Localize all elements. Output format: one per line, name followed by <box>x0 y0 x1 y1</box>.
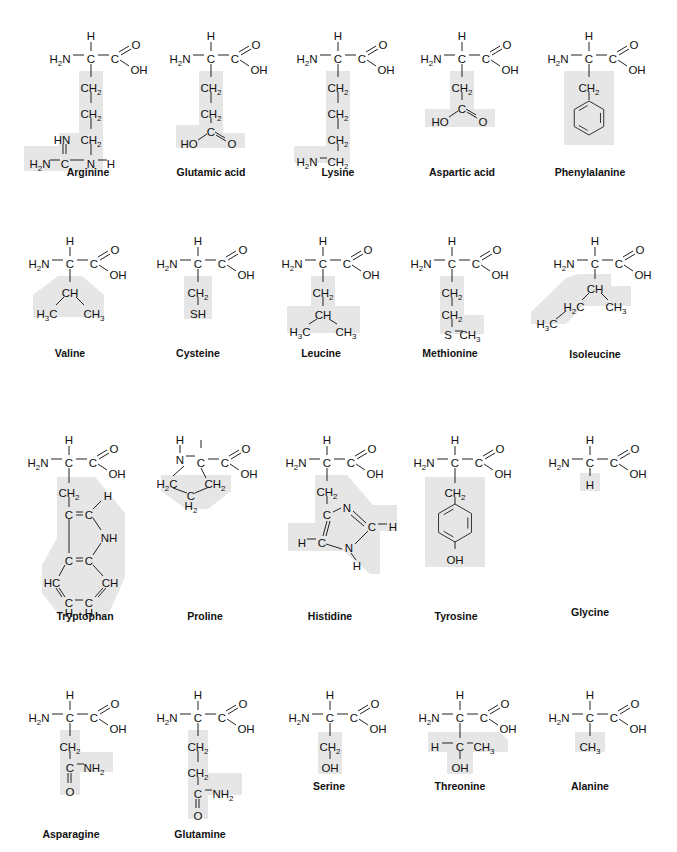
carboxyl-carbon: C <box>482 53 490 65</box>
carboxyl-hydroxyl: OH <box>491 269 508 281</box>
carbonyl-oxygen: O <box>631 698 640 710</box>
carboxyl-carbon: C <box>475 457 483 469</box>
amine-group: H2​N <box>49 53 70 68</box>
alpha-hydrogen: H <box>458 30 466 42</box>
alpha-hydrogen: H <box>334 30 342 42</box>
alpha-hydrogen: H <box>87 30 95 42</box>
alpha-carbon: C <box>456 712 464 724</box>
carboxyl-hydroxyl: OH <box>369 723 386 735</box>
amine-group: H2​N <box>156 712 177 727</box>
carbonyl-oxygen: O <box>364 244 373 256</box>
alpha-hydrogen: H <box>319 235 327 247</box>
bond-line <box>98 464 107 470</box>
carbonyl-oxygen: O <box>242 443 251 455</box>
carboxyl-hydroxyl: OH <box>130 64 147 76</box>
carboxyl-hydroxyl: OH <box>109 269 126 281</box>
carboxyl-hydroxyl: OH <box>237 269 254 281</box>
side-chain-atom: C <box>194 788 202 800</box>
carboxyl-hydroxyl: OH <box>240 468 257 480</box>
side-chain-atom: OH <box>451 762 468 774</box>
amine-group: H2​N <box>420 53 441 68</box>
tryptophan-side-chain-shading <box>42 477 125 615</box>
carbonyl-oxygen: O <box>631 443 640 455</box>
carboxyl-carbon: C <box>90 712 98 724</box>
carboxyl-carbon: C <box>350 712 358 724</box>
bond-line <box>491 60 500 66</box>
amine-group: H2​N <box>418 712 439 727</box>
side-chain-atom: H <box>431 741 439 753</box>
amine-group: H2​N <box>28 712 49 727</box>
bond-line <box>624 265 633 271</box>
carboxyl-carbon: C <box>472 258 480 270</box>
carboxyl-hydroxyl: OH <box>629 468 646 480</box>
carbonyl-oxygen: O <box>110 443 119 455</box>
side-chain-atom: O <box>66 786 75 798</box>
carboxyl-carbon: C <box>218 258 226 270</box>
bond-line <box>619 719 628 725</box>
carbonyl-oxygen: O <box>496 443 505 455</box>
carboxyl-carbon: C <box>89 457 97 469</box>
carboxyl-hydroxyl: OH <box>499 723 516 735</box>
amine-group: H2​N <box>156 258 177 273</box>
carboxyl-carbon: C <box>610 712 618 724</box>
bond-line <box>619 464 628 470</box>
carboxyl-hydroxyl: OH <box>108 468 125 480</box>
bond-line <box>99 719 108 725</box>
bond-line <box>359 719 368 725</box>
carboxyl-hydroxyl: OH <box>628 64 645 76</box>
alpha-carbon: C <box>319 258 327 270</box>
amine-group: H2​N <box>169 53 190 68</box>
carbonyl-oxygen: O <box>371 698 380 710</box>
carbonyl-oxygen: O <box>368 443 377 455</box>
carbonyl-oxygen: O <box>636 244 645 256</box>
side-chain-atom: C <box>85 509 93 521</box>
side-chain-atom: N <box>176 454 184 466</box>
side-chain-atom: HN <box>54 134 71 146</box>
alpha-carbon: C <box>65 457 73 469</box>
carboxyl-hydroxyl: OH <box>634 269 651 281</box>
amine-group: H2​N <box>296 53 317 68</box>
amine-group: H2​N <box>288 712 309 727</box>
amine-group: H2​N <box>413 457 434 472</box>
alpha-carbon: C <box>66 258 74 270</box>
carboxyl-hydroxyl: OH <box>109 723 126 735</box>
bond-line <box>484 464 493 470</box>
carbonyl-oxygen: O <box>239 698 248 710</box>
carbonyl-oxygen: O <box>132 39 141 51</box>
carboxyl-hydroxyl: OH <box>629 723 646 735</box>
alpha-hydrogen: H <box>451 434 459 446</box>
bond-line <box>356 464 365 470</box>
side-chain-atom: S <box>444 329 452 341</box>
alpha-hydrogen: H <box>591 235 599 247</box>
carboxyl-hydroxyl: OH <box>362 269 379 281</box>
amino-acid-structures-figure: HH2​NCCOOHCH2​CH2​CH2​HNH2​NCNHHH2​NCCOO… <box>0 0 677 852</box>
alpha-hydrogen: H <box>326 689 334 701</box>
amine-group: H2​N <box>281 258 302 273</box>
carboxyl-carbon: C <box>221 457 229 469</box>
side-chain-atom: N <box>345 542 353 554</box>
carboxyl-carbon: C <box>358 53 366 65</box>
amine-group: H2​N <box>410 258 431 273</box>
side-chain-atom: C <box>65 555 73 567</box>
side-chain-atom: C <box>318 537 326 549</box>
alpha-hydrogen: H <box>194 689 202 701</box>
alpha-carbon: C <box>448 258 456 270</box>
carboxyl-carbon: C <box>347 457 355 469</box>
alpha-carbon: C <box>194 258 202 270</box>
carboxyl-carbon: C <box>343 258 351 270</box>
bond-line <box>240 60 249 66</box>
side-chain-atom: H <box>65 607 73 619</box>
side-chain-atom: H <box>107 158 115 170</box>
alpha-hydrogen: H <box>586 434 594 446</box>
carbonyl-oxygen: O <box>111 244 120 256</box>
alpha-carbon: C <box>451 457 459 469</box>
bond-line <box>489 719 498 725</box>
carbonyl-oxygen: O <box>630 39 639 51</box>
bond-line <box>173 466 184 476</box>
alpha-hydrogen: H <box>585 30 593 42</box>
amine-group: H2​N <box>28 258 49 273</box>
alpha-carbon: C <box>326 712 334 724</box>
carbonyl-oxygen: O <box>379 39 388 51</box>
side-chain-atom: CH <box>102 577 119 589</box>
alpha-hydrogen: H <box>448 235 456 247</box>
